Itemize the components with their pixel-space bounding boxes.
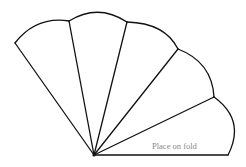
radial-line-1 (15, 43, 94, 155)
radial-line-2 (69, 21, 94, 155)
fold-label: Place on fold (152, 141, 198, 151)
petal-arc-2 (69, 12, 127, 22)
petal-outlines (15, 12, 234, 155)
petal-arc-4 (178, 49, 214, 97)
fan-pattern-diagram: Place on fold (0, 0, 246, 167)
petal-arc-1 (15, 20, 69, 43)
center-point (92, 153, 95, 156)
petal-arc-3 (127, 22, 178, 49)
petal-arc-5 (214, 97, 234, 155)
